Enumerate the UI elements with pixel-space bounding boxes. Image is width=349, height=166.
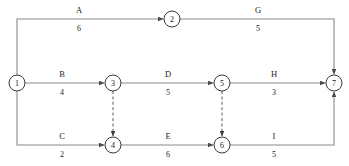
edge-G-name: G	[255, 5, 261, 15]
edge-H-duration: 3	[272, 88, 276, 97]
edge-I-duration: 5	[272, 150, 276, 159]
node-3-label: 3	[111, 79, 115, 88]
edge-H-name: H	[271, 69, 277, 79]
node-4-label: 4	[111, 141, 115, 150]
node-5[interactable]: 5	[214, 75, 230, 91]
edge-C-name: C	[59, 131, 65, 141]
node-3[interactable]: 3	[105, 75, 121, 91]
edge-I	[230, 92, 334, 145]
edge-A-path	[17, 19, 163, 75]
edge-C-duration: 2	[60, 150, 64, 159]
node-2[interactable]: 2	[164, 11, 180, 27]
edge-B-name: B	[59, 69, 65, 79]
edge-E-name: E	[165, 131, 170, 141]
edge-A-name: A	[76, 5, 83, 15]
edge-D-name: D	[165, 69, 171, 79]
edge-A	[17, 19, 163, 75]
network-diagram-canvas: 1 2 3 4 5 6 7 A 6 G 5 B 4	[0, 0, 349, 166]
edge-A-duration: 6	[77, 24, 81, 33]
edge-E-duration: 6	[166, 150, 170, 159]
node-7[interactable]: 7	[326, 75, 342, 91]
edge-I-name: I	[273, 131, 276, 141]
node-1[interactable]: 1	[9, 75, 25, 91]
node-5-label: 5	[220, 79, 224, 88]
edge-B-duration: 4	[60, 88, 64, 97]
node-6[interactable]: 6	[214, 137, 230, 153]
edge-G-duration: 5	[256, 24, 260, 33]
node-6-label: 6	[220, 141, 224, 150]
node-2-label: 2	[170, 15, 174, 24]
node-4[interactable]: 4	[105, 137, 121, 153]
node-7-label: 7	[332, 79, 336, 88]
node-1-label: 1	[15, 79, 19, 88]
diagram-svg: 1 2 3 4 5 6 7 A 6 G 5 B 4	[0, 0, 349, 166]
edge-D-duration: 5	[166, 88, 170, 97]
edge-I-path	[230, 92, 334, 145]
